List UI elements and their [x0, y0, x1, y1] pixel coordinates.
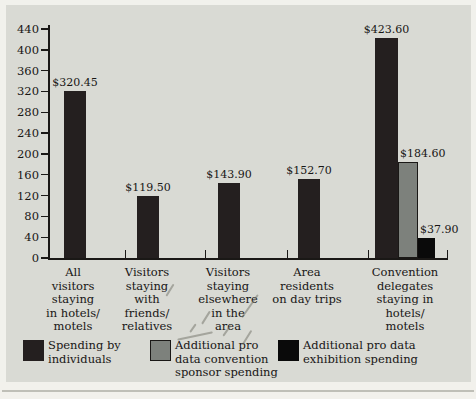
y-axis-tick — [41, 153, 50, 154]
legend-label: Additional pro data exhibition spending — [303, 339, 431, 366]
bar-individuals-cat3 — [218, 183, 240, 258]
x-axis-tick — [205, 250, 206, 258]
scanned-figure-page: { "figure": { "panel_background": "#d9da… — [0, 0, 476, 399]
bar-exhibition-cat5 — [418, 238, 435, 258]
y-axis-tick-label: 160 — [8, 168, 39, 182]
y-axis-tick — [41, 70, 50, 71]
bar-sponsor-cat5 — [398, 162, 418, 258]
bar-individuals-cat4 — [298, 179, 320, 258]
legend-swatch-individuals — [23, 340, 44, 361]
legend-item: Additional pro data exhibition spending — [278, 340, 433, 384]
y-axis-tick-label: 360 — [8, 64, 39, 78]
y-axis-tick-label: 400 — [8, 43, 39, 57]
bar-value-label: $184.60 — [400, 147, 446, 160]
y-axis-tick — [41, 112, 50, 113]
y-axis-tick — [41, 257, 50, 258]
bar-individuals-cat1 — [64, 91, 86, 258]
legend-swatch-exhibition — [278, 340, 299, 361]
x-axis-tick — [125, 250, 126, 258]
bar-value-label: $320.45 — [52, 76, 98, 89]
y-axis-tick — [41, 195, 50, 196]
bar-value-label: $37.90 — [420, 223, 459, 236]
bar-value-label: $423.60 — [364, 23, 410, 36]
x-axis-tick — [287, 250, 288, 258]
y-axis-tick — [41, 28, 50, 29]
page-rule-line — [2, 390, 474, 392]
x-axis-tick — [368, 250, 369, 258]
x-axis-tick — [447, 250, 448, 258]
bar-value-label: $152.70 — [286, 164, 332, 177]
y-axis-tick — [41, 49, 50, 50]
y-axis-tick-label: 120 — [8, 189, 39, 203]
y-axis-tick-label: 280 — [8, 105, 39, 119]
y-axis-tick-label: 200 — [8, 147, 39, 161]
y-axis-tick — [41, 174, 50, 175]
bar-individuals-cat2 — [137, 196, 159, 258]
y-axis-tick-label: 40 — [8, 230, 39, 244]
category-label: Convention delegates staying in hotels/ … — [350, 266, 460, 334]
bar-individuals-cat5 — [375, 38, 398, 258]
y-axis-tick — [41, 216, 50, 217]
x-axis-line — [48, 258, 448, 260]
chart-panel: 44040036032028024020016012080400$320.45A… — [6, 5, 471, 382]
bar-value-label: $119.50 — [125, 181, 171, 194]
y-axis-tick-label: 80 — [8, 209, 39, 223]
category-label: Area residents on day trips — [252, 266, 362, 307]
legend-swatch-sponsor — [150, 340, 171, 361]
bar-value-label: $143.90 — [206, 168, 252, 181]
y-axis-tick-label: 320 — [8, 84, 39, 98]
y-axis-tick — [41, 91, 50, 92]
y-axis-tick-label: 0 — [8, 251, 39, 265]
y-axis-tick-label: 440 — [8, 22, 39, 36]
y-axis-line — [48, 25, 50, 260]
page-margin-strip — [0, 382, 476, 399]
y-axis-tick — [41, 237, 50, 238]
y-axis-tick-label: 240 — [8, 126, 39, 140]
y-axis-tick — [41, 132, 50, 133]
